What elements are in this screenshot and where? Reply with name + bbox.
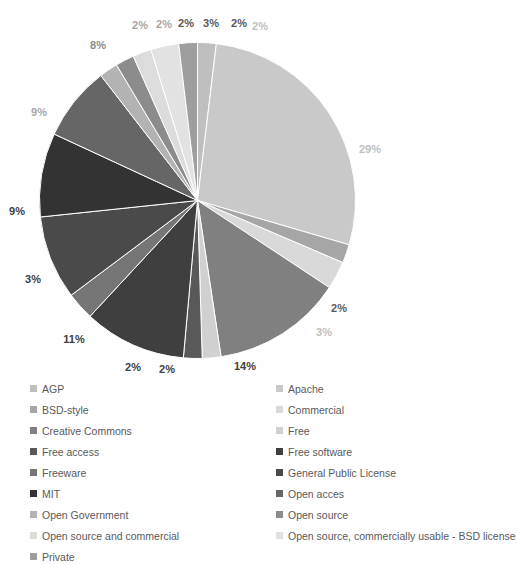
legend-item[interactable]: Commercial (276, 399, 511, 420)
pie-percentage-label: 9% (31, 107, 47, 118)
legend-item-label: BSD-style (42, 404, 89, 416)
legend-item[interactable]: Open source (276, 504, 511, 525)
legend-item-label: Open acces (288, 488, 344, 500)
legend-item[interactable]: Open source and commercial (30, 525, 276, 546)
legend-item-label: Freeware (42, 467, 86, 479)
pie-percentage-label: 2% (125, 362, 141, 373)
legend-swatch-icon (276, 511, 283, 518)
legend-item[interactable]: MIT (30, 483, 276, 504)
legend-item[interactable]: Creative Commons (30, 420, 276, 441)
legend-item[interactable]: Free software (276, 441, 511, 462)
legend-item-label: Creative Commons (42, 425, 132, 437)
legend-item-label: Free software (288, 446, 352, 458)
pie-percentage-label: 3% (203, 18, 219, 29)
legend-item-label: Commercial (288, 404, 344, 416)
legend-swatch-icon (30, 553, 37, 560)
pie-percentage-label: 11% (63, 334, 84, 345)
legend-item-empty (276, 546, 511, 565)
legend-item[interactable]: Apache (276, 378, 511, 399)
legend-item[interactable]: Freeware (30, 462, 276, 483)
legend-swatch-icon (30, 532, 37, 539)
legend-swatch-icon (30, 490, 37, 497)
legend-swatch-icon (30, 448, 37, 455)
legend-swatch-icon (30, 511, 37, 518)
legend-grid: AGPApacheBSD-styleCommercialCreative Com… (0, 378, 481, 565)
legend-item-label: Private (42, 551, 75, 563)
legend-swatch-icon (276, 448, 283, 455)
pie-percentage-label: 2% (132, 20, 148, 31)
legend-item-label: Open source and commercial (42, 530, 179, 542)
legend-swatch-icon (30, 469, 37, 476)
legend-swatch-icon (276, 469, 283, 476)
pie-percentage-label: 2% (331, 303, 347, 314)
pie-percentage-label: 29% (359, 144, 381, 155)
legend-item[interactable]: Open Government (30, 504, 276, 525)
legend-swatch-icon (30, 427, 37, 434)
pie-slice-group (40, 43, 356, 359)
legend-swatch-icon (30, 406, 37, 413)
pie-percentage-label: 2% (178, 18, 194, 29)
legend-swatch-icon (276, 385, 283, 392)
legend-item-label: Free (288, 425, 310, 437)
legend-item-label: MIT (42, 488, 60, 500)
pie-percentage-label: 2% (231, 18, 247, 29)
legend-item-label: General Public License (288, 467, 396, 479)
legend-item[interactable]: Open acces (276, 483, 511, 504)
legend-item-label: Open source, commercially usable - BSD l… (288, 530, 516, 542)
pie-chart-area: 2%2%2%3%2%2%29%2%3%14%2%2%11%3%9%9%8% (0, 0, 481, 372)
pie-percentage-label: 8% (90, 40, 106, 51)
chart-legend: AGPApacheBSD-styleCommercialCreative Com… (0, 372, 481, 553)
pie-chart-svg (0, 0, 481, 372)
legend-swatch-icon (30, 385, 37, 392)
legend-item[interactable]: Private (30, 546, 276, 565)
legend-swatch-icon (276, 532, 283, 539)
legend-item-label: Open Government (42, 509, 128, 521)
legend-swatch-icon (276, 427, 283, 434)
legend-swatch-icon (276, 406, 283, 413)
legend-item[interactable]: Free (276, 420, 511, 441)
legend-item[interactable]: BSD-style (30, 399, 276, 420)
pie-percentage-label: 14% (234, 361, 256, 372)
pie-percentage-label: 3% (25, 274, 41, 285)
legend-item-label: Free access (42, 446, 99, 458)
legend-item[interactable]: Free access (30, 441, 276, 462)
pie-percentage-label: 2% (252, 21, 268, 32)
legend-item[interactable]: General Public License (276, 462, 511, 483)
pie-percentage-label: 9% (9, 206, 25, 217)
pie-percentage-label: 3% (316, 327, 332, 338)
legend-item-label: AGP (42, 383, 64, 395)
pie-percentage-label: 2% (156, 19, 172, 30)
legend-swatch-icon (276, 490, 283, 497)
legend-item[interactable]: AGP (30, 378, 276, 399)
legend-item-label: Open source (288, 509, 348, 521)
legend-item[interactable]: Open source, commercially usable - BSD l… (276, 525, 511, 546)
legend-item-label: Apache (288, 383, 324, 395)
